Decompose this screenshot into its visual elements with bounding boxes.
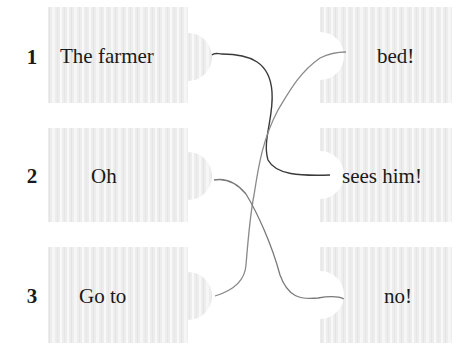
row-number-1: 1	[22, 45, 42, 69]
matching-exercise: 1 2 3 The farmer Oh Go to bed! sees him!…	[0, 0, 475, 357]
row-number-3: 3	[22, 284, 42, 308]
right-phrase-no[interactable]: no!	[384, 284, 412, 308]
left-phrase-go-to[interactable]: Go to	[79, 284, 126, 308]
connection-line-1-to-sees-him	[212, 53, 330, 175]
connection-line-2-to-no	[214, 180, 344, 299]
left-piece-2[interactable]	[48, 128, 212, 222]
left-phrase-the-farmer[interactable]: The farmer	[60, 44, 154, 68]
row-number-2: 2	[22, 164, 42, 188]
right-phrase-bed[interactable]: bed!	[377, 44, 414, 68]
right-phrase-sees-him[interactable]: sees him!	[342, 164, 422, 188]
left-phrase-oh[interactable]: Oh	[91, 164, 117, 188]
left-piece-3[interactable]	[48, 247, 212, 343]
